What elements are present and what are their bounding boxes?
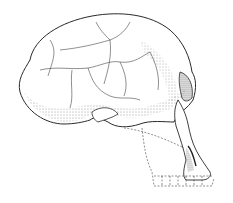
skull-drawing [0, 0, 233, 203]
skull-illustration [0, 0, 233, 203]
cranium [19, 14, 195, 127]
face [175, 100, 211, 180]
